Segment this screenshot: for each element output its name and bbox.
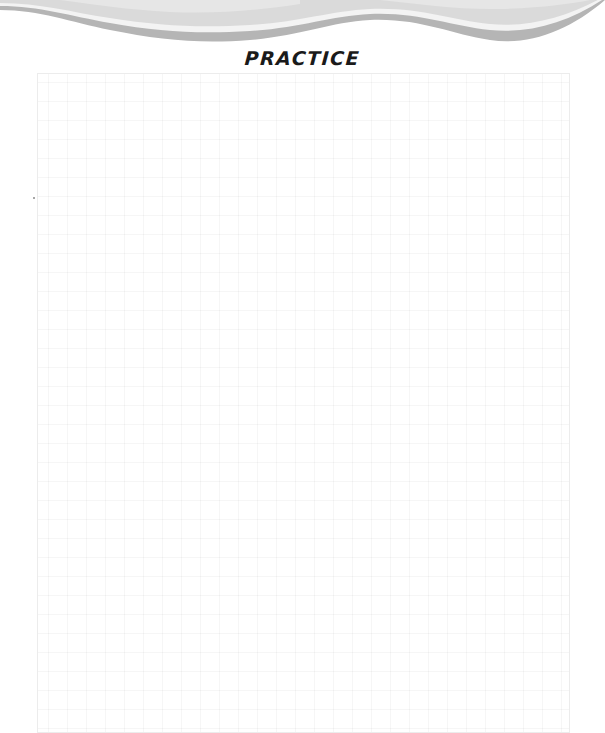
wave-header-decoration: [0, 0, 605, 48]
stray-mark: [33, 197, 35, 199]
page-title: PRACTICE: [0, 47, 605, 69]
practice-grid-area[interactable]: [37, 73, 570, 733]
